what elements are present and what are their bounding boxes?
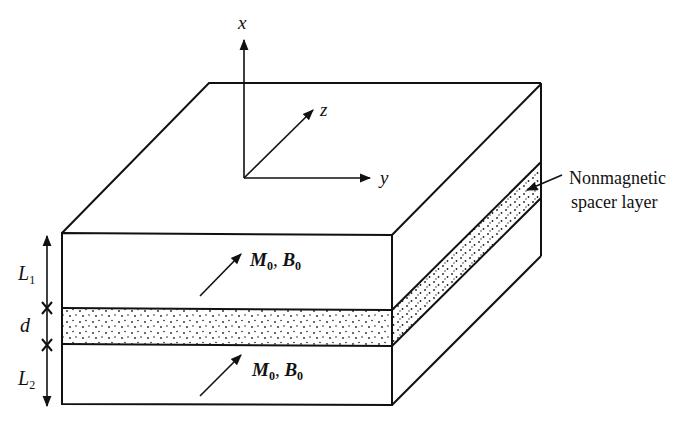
bottom-right-diagonal xyxy=(392,256,541,405)
spacer-bottom-side xyxy=(392,198,541,346)
annotation-line-1: Nonmagnetic xyxy=(569,168,666,188)
magnetization-arrow-bottom xyxy=(200,355,241,396)
y-axis-label: y xyxy=(378,167,389,188)
spacer-front-fill xyxy=(63,309,391,345)
bottom-layer-label: M0, B0 xyxy=(251,359,303,383)
annotation-line-2: spacer layer xyxy=(571,192,657,212)
spacer-side-fill xyxy=(392,163,540,345)
l1-label: L1 xyxy=(17,262,35,287)
x-axis-label: x xyxy=(237,12,247,33)
l2-label: L2 xyxy=(17,367,35,392)
magnetization-arrow-top xyxy=(200,254,241,296)
d-label: d xyxy=(20,314,31,336)
top-layer-label: M0, B0 xyxy=(249,249,301,273)
z-axis-arrow xyxy=(244,110,313,178)
trilayer-diagram: x y z M0, B0 M0, B0 L1 d L2 Nonmagnetic … xyxy=(0,0,699,424)
z-axis-label: z xyxy=(319,99,328,120)
spacer-top-side xyxy=(392,162,541,310)
